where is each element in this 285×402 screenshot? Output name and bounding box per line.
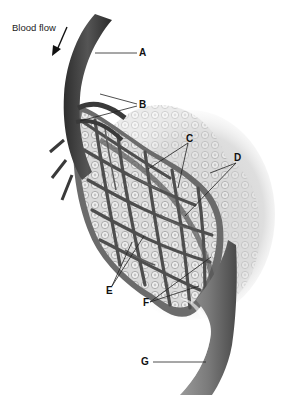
label-g: G: [141, 357, 149, 367]
blood-flow-label: Blood flow: [12, 23, 56, 33]
label-d: D: [234, 153, 241, 163]
label-c: C: [186, 134, 193, 144]
label-e: E: [106, 286, 113, 296]
label-a: A: [139, 48, 146, 58]
capillary-bed-diagram: [0, 0, 285, 402]
label-f: F: [143, 298, 149, 308]
label-b: B: [139, 100, 146, 110]
